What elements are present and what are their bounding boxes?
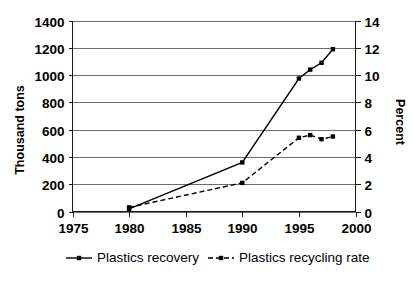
data-point-marker <box>240 181 244 185</box>
y-tick-label: 800 <box>42 96 65 111</box>
x-tick-label: 2000 <box>341 221 371 236</box>
x-tick-label: 1985 <box>171 221 202 236</box>
x-axis-tick-labels: 197519801985199019952000 <box>58 221 371 236</box>
y-tick-label: 0 <box>57 206 65 221</box>
y-tick-label: 1000 <box>34 69 64 84</box>
y2-tick-label: 2 <box>365 178 373 193</box>
plot-frame <box>73 21 356 212</box>
gridlines <box>73 22 356 213</box>
x-tick-label: 1980 <box>114 221 144 236</box>
legend-item-0[interactable]: Plastics recovery <box>66 250 199 265</box>
y2-tick-label: 0 <box>365 206 373 221</box>
x-tick-label: 1975 <box>58 221 89 236</box>
y2-axis-title: Percent <box>393 99 407 146</box>
y-axis-tick-labels: 0200400600800100012001400 <box>34 15 64 221</box>
x-tick-label: 1995 <box>284 221 315 236</box>
y-axis-title: Thousand tons <box>13 85 27 175</box>
legend-item-1[interactable]: Plastics recycling rate <box>208 250 370 265</box>
data-point-marker <box>240 160 244 164</box>
y-tick-label: 1200 <box>34 42 64 57</box>
data-point-marker <box>297 136 301 140</box>
y-tick-label: 200 <box>42 178 65 193</box>
y2-axis-tick-labels: 02468101214 <box>365 15 381 221</box>
data-point-marker <box>127 205 131 209</box>
legend-marker-sample <box>219 256 223 260</box>
y2-tick-label: 6 <box>365 124 373 139</box>
y2-tick-label: 14 <box>365 15 381 30</box>
y2-axis-ticks <box>356 22 361 213</box>
y2-tick-label: 12 <box>365 42 380 57</box>
data-point-marker <box>331 134 335 138</box>
data-point-marker <box>331 47 335 51</box>
y-tick-label: 600 <box>42 124 65 139</box>
data-point-marker <box>308 67 312 71</box>
data-point-marker <box>308 133 312 137</box>
data-series-layer <box>127 47 335 211</box>
data-point-marker <box>319 137 323 141</box>
y-tick-label: 1400 <box>34 15 64 30</box>
y2-tick-label: 8 <box>365 96 373 111</box>
data-point-marker <box>297 76 301 80</box>
x-tick-label: 1990 <box>227 221 257 236</box>
chart-legend: Plastics recoveryPlastics recycling rate <box>66 250 370 265</box>
legend-label: Plastics recovery <box>97 250 199 265</box>
y2-tick-label: 10 <box>365 69 380 84</box>
legend-label: Plastics recycling rate <box>239 250 370 265</box>
line-chart: 0200400600800100012001400 02468101214 19… <box>0 0 412 282</box>
y2-tick-label: 4 <box>365 151 373 166</box>
y-tick-label: 400 <box>42 151 65 166</box>
legend-marker-sample <box>77 256 81 260</box>
chart-container: 0200400600800100012001400 02468101214 19… <box>0 0 412 282</box>
data-point-marker <box>319 61 323 65</box>
